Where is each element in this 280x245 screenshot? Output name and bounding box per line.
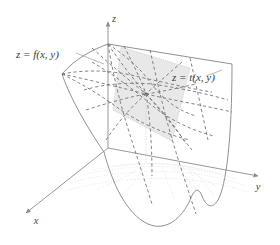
surface-function-label: z = f(x, y) (15, 48, 59, 61)
y-axis-label: y (255, 181, 261, 192)
surface-left-back-edge (62, 44, 108, 74)
figure-container: z y x (0, 0, 280, 245)
z-axis-label: z (111, 13, 116, 24)
surface-tangent-plane-figure: z y x (0, 0, 280, 245)
tangent-plane (113, 47, 190, 141)
x-axis (26, 148, 108, 213)
tangent-plane-fill (113, 47, 190, 141)
tangent-function-label: z = t(x, y) (171, 71, 215, 84)
x-axis-label: x (33, 215, 39, 226)
y-axis (108, 148, 258, 176)
